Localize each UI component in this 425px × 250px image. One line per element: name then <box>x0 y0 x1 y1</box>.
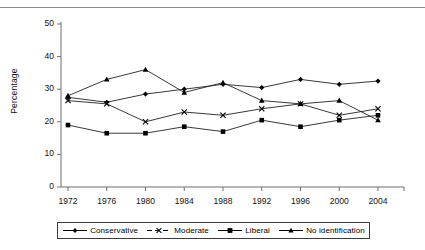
legend-label: Liberal <box>245 226 270 235</box>
data-point-conservative-1992 <box>259 85 264 90</box>
legend-item-no-identification[interactable]: No identification <box>277 225 366 236</box>
data-point-liberal-2004 <box>376 113 381 118</box>
data-point-liberal-1980 <box>143 131 148 136</box>
data-point-conservative-2000 <box>337 82 342 87</box>
data-point-liberal-1996 <box>298 124 303 129</box>
legend-label: Moderate <box>174 226 209 235</box>
data-point-liberal-1992 <box>259 118 264 123</box>
triangle-marker <box>278 225 304 236</box>
data-point-no-identification-1988 <box>220 80 226 85</box>
legend-item-liberal[interactable]: Liberal <box>216 225 271 236</box>
legend-item-conservative[interactable]: Conservative <box>61 225 139 236</box>
data-point-no-identification-2000 <box>336 98 342 103</box>
chart-legend: ConservativeModerateLiberalNo identifica… <box>57 222 370 239</box>
data-point-conservative-1980 <box>143 91 148 96</box>
data-point-liberal-1988 <box>221 129 226 134</box>
data-point-liberal-2000 <box>337 118 342 123</box>
data-point-no-identification-1980 <box>143 67 149 72</box>
data-point-liberal-1972 <box>66 123 71 128</box>
data-point-no-identification-1992 <box>259 98 265 103</box>
square-marker <box>217 225 243 236</box>
cross-marker <box>146 225 172 236</box>
data-point-liberal-1984 <box>182 124 187 129</box>
series-line-moderate <box>68 101 378 122</box>
legend-label: Conservative <box>90 226 138 235</box>
data-point-conservative-1996 <box>298 77 303 82</box>
data-point-conservative-2004 <box>375 78 380 83</box>
line-chart-plot <box>0 0 425 250</box>
legend-item-moderate[interactable]: Moderate <box>145 225 210 236</box>
legend-label: No identification <box>306 226 365 235</box>
data-point-liberal-1976 <box>104 131 109 136</box>
chart-page: Percentage 01020304050 19721976198019841… <box>0 0 425 250</box>
diamond-marker <box>62 225 88 236</box>
data-point-no-identification-2004 <box>375 117 381 122</box>
